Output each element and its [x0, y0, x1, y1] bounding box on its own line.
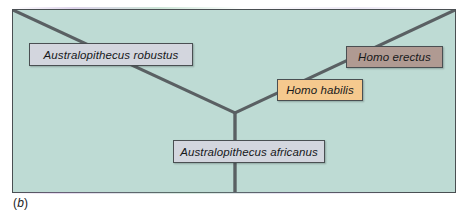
figure-root: Australopithecus robustus Australopithec…: [0, 0, 466, 217]
taxon-label-australopithecus-africanus: Australopithecus africanus: [180, 146, 317, 158]
taxon-box-australopithecus-robustus: Australopithecus robustus: [29, 43, 193, 66]
taxon-box-homo-erectus: Homo erectus: [346, 46, 443, 68]
taxon-box-homo-habilis: Homo habilis: [277, 79, 363, 101]
figure-caption: (b): [13, 196, 28, 210]
taxon-box-australopithecus-africanus: Australopithecus africanus: [173, 140, 325, 163]
taxon-label-homo-erectus: Homo erectus: [358, 51, 431, 63]
taxon-label-australopithecus-robustus: Australopithecus robustus: [44, 49, 179, 61]
caption-close-paren: ): [24, 196, 28, 210]
taxon-label-homo-habilis: Homo habilis: [286, 84, 354, 96]
cladogram-panel: Australopithecus robustus Australopithec…: [12, 9, 456, 193]
branch-lines: [13, 10, 455, 192]
